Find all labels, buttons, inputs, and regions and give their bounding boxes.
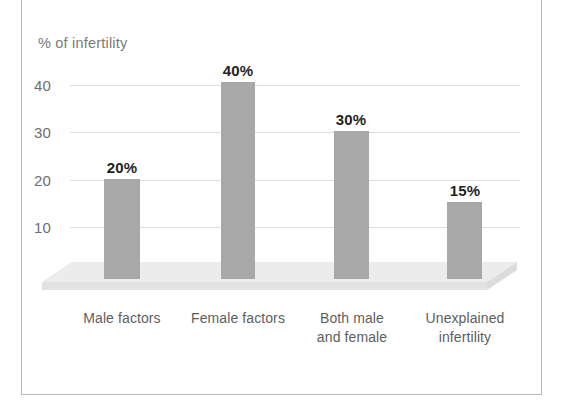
category-label-male-factors: Male factors (62, 309, 182, 328)
category-label-both-male-and-female: Both male and female (292, 309, 412, 347)
bar-male-factors (104, 179, 140, 279)
y-tick-label-10: 10 (34, 219, 66, 236)
chart-screenshot: % of infertility 40 30 20 10 20% 40% 30%… (0, 0, 561, 413)
y-tick-label-20: 20 (34, 172, 66, 189)
y-tick-label-40: 40 (34, 77, 66, 94)
y-axis-title: % of infertility (38, 35, 127, 51)
bar-value-unexplained-infertility: 15% (425, 182, 505, 199)
bar-value-female-factors: 40% (198, 62, 278, 79)
bar-unexplained-infertility (447, 202, 482, 279)
bar-value-male-factors: 20% (82, 159, 162, 176)
category-label-female-factors: Female factors (178, 309, 298, 328)
bar-female-factors (221, 82, 255, 279)
gridline-40 (70, 85, 520, 86)
category-label-unexplained-infertility: Unexplained infertility (405, 309, 525, 347)
bar-both-male-and-female (334, 131, 369, 279)
gridline-30 (70, 132, 520, 133)
bar-chart: % of infertility 40 30 20 10 20% 40% 30%… (0, 0, 561, 413)
y-tick-label-30: 30 (34, 124, 66, 141)
bar-value-both-male-and-female: 30% (311, 111, 391, 128)
